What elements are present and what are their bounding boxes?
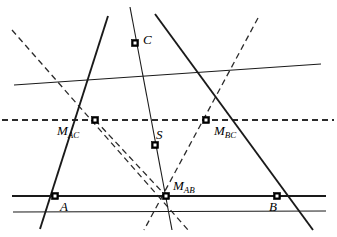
marker-square-hole bbox=[276, 195, 279, 198]
marker-square-hole bbox=[94, 119, 97, 122]
label-midpoint-bc-main: M bbox=[214, 123, 225, 138]
geometry-figure: A B C S MAC MBC MAB bbox=[0, 0, 337, 237]
point-marker-m-bc bbox=[203, 117, 210, 124]
marker-square-hole bbox=[165, 195, 168, 198]
label-vertex-b: B bbox=[269, 200, 277, 213]
label-midpoint-ac: MAC bbox=[57, 124, 79, 137]
label-centroid-s: S bbox=[156, 128, 163, 141]
side-BC-extended bbox=[155, 14, 313, 230]
label-midpoint-ab: MAB bbox=[173, 179, 195, 192]
point-marker-s bbox=[152, 142, 159, 149]
label-midpoint-bc: MBC bbox=[214, 124, 236, 137]
marker-square-hole bbox=[205, 119, 208, 122]
marker-square-hole bbox=[154, 144, 157, 147]
figure-canvas bbox=[0, 0, 337, 237]
label-vertex-c: C bbox=[143, 33, 152, 46]
label-midpoint-ac-sub: AC bbox=[68, 130, 80, 140]
label-midpoint-ab-sub: AB bbox=[184, 185, 195, 195]
point-marker-m-ac bbox=[92, 117, 99, 124]
label-vertex-a: A bbox=[60, 200, 68, 213]
point-marker-c bbox=[132, 40, 139, 47]
label-midpoint-ab-main: M bbox=[173, 178, 184, 193]
point-marker-m-ab bbox=[163, 193, 170, 200]
marker-square-hole bbox=[54, 195, 57, 198]
cevian-dash-right bbox=[144, 18, 258, 230]
median-B-to-MAC bbox=[14, 64, 321, 85]
label-midpoint-ac-main: M bbox=[57, 123, 68, 138]
label-midpoint-bc-sub: BC bbox=[225, 130, 237, 140]
marker-square-hole bbox=[134, 42, 137, 45]
point-marker-a bbox=[52, 193, 59, 200]
